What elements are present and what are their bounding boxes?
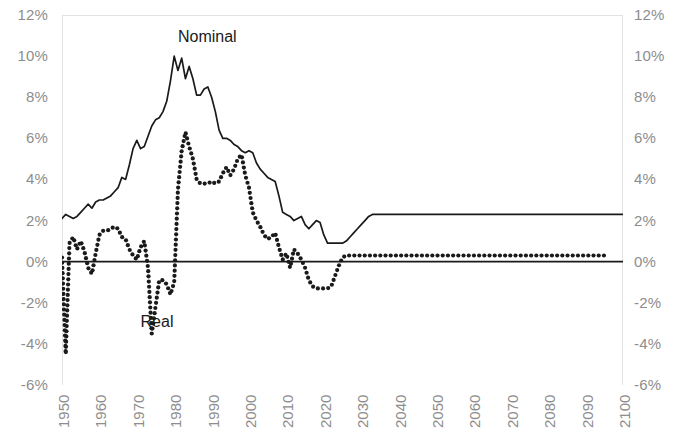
y-axis-left-tick-3: 6% [0,130,48,145]
x-axis-tick-7: 2020 [318,395,333,428]
x-axis-tick-0: 1950 [56,395,71,428]
y-axis-right-tick-2: 8% [634,89,684,104]
y-axis-left-tick-5: 2% [0,213,48,228]
series-label-nominal: Nominal [178,28,237,46]
x-axis-tick-4: 1990 [206,395,221,428]
y-axis-left-tick-6: 0% [0,254,48,269]
x-axis-tick-15: 2100 [617,395,632,428]
y-axis-right-tick-0: 12% [634,7,684,22]
x-axis-tick-14: 2090 [580,395,595,428]
y-axis-left-tick-4: 4% [0,171,48,186]
y-axis-right-tick-9: -6% [634,377,684,392]
y-axis-left-tick-8: -4% [0,336,48,351]
x-axis-tick-12: 2070 [505,395,520,428]
y-axis-right-tick-8: -4% [634,336,684,351]
x-axis-tick-8: 2030 [355,395,370,428]
x-axis-tick-9: 2040 [393,395,408,428]
y-axis-left-tick-7: -2% [0,295,48,310]
y-axis-left-tick-1: 10% [0,48,48,63]
x-axis-tick-3: 1980 [168,395,183,428]
series-nominal [62,56,623,243]
x-axis-tick-5: 2000 [243,395,258,428]
y-axis-left-tick-0: 12% [0,7,48,22]
y-axis-right-tick-1: 10% [634,48,684,63]
y-axis-right-tick-5: 2% [634,213,684,228]
x-axis-tick-10: 2050 [430,395,445,428]
y-axis-right-tick-3: 6% [634,130,684,145]
y-axis-left-tick-2: 8% [0,89,48,104]
x-axis-tick-2: 1970 [131,395,146,428]
y-axis-right-tick-7: -2% [634,295,684,310]
x-axis-tick-1: 1960 [93,395,108,428]
x-axis-tick-6: 2010 [280,395,295,428]
y-axis-left-tick-9: -6% [0,377,48,392]
series-label-real: Real [141,313,174,331]
chart-container: Nominal Real 12%12%10%10%8%8%6%6%4%4%2%2… [0,0,687,441]
x-axis-tick-11: 2060 [467,395,482,428]
y-axis-right-tick-6: 0% [634,254,684,269]
y-axis-right-tick-4: 4% [634,171,684,186]
x-axis-tick-13: 2080 [542,395,557,428]
